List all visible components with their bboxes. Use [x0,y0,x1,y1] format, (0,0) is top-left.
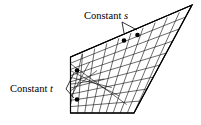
constant-t-dot-1 [75,68,80,73]
constant-s-dot-2 [135,33,140,38]
figure-container: Constant s Constant t [0,0,201,125]
constant-s-label: Constant s [84,10,128,21]
constant-t-prefix: Constant [10,83,47,94]
constant-t-label: Constant t [10,83,54,94]
constant-s-prefix: Constant [84,10,121,21]
constant-t-dot-2 [75,97,80,102]
constant-s-dot-1 [122,38,127,43]
constant-s-symbol: s [124,10,128,21]
constant-t-symbol: t [50,83,54,94]
patch-outline [71,5,193,113]
surface-patch-diagram: Constant s Constant t [0,0,201,125]
